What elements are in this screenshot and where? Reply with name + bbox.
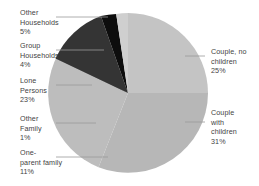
pie-label-one-parent-family: One- parent family 11% — [20, 148, 62, 177]
pie-label-group-households: Group Households 4% — [20, 41, 59, 70]
pie-slice-couple-no-children[interactable] — [128, 13, 208, 93]
pie-label-couple-no-children: Couple, no children 25% — [211, 47, 247, 76]
pie-slices — [48, 13, 208, 173]
pie-label-other-family: Other Family 1% — [20, 114, 42, 143]
pie-label-other-households: Other Households 5% — [20, 8, 59, 37]
pie-label-lone-persons: Lone Persons 23% — [20, 76, 47, 105]
pie-label-couple-with-children: Couple with children 31% — [211, 108, 237, 146]
pie-chart: Other Households 5% Group Households 4% … — [0, 0, 259, 186]
